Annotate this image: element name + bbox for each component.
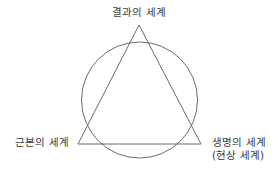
triangle-shape <box>78 25 201 144</box>
circle-shape <box>82 42 198 158</box>
diagram-figure: 결과의 세계 근본의 세계 생명의 세계 (현상 세계) <box>0 0 278 178</box>
label-bottom-right-line-2: (현상 세계) <box>212 149 278 162</box>
label-bottom-right-vertex: 생명의 세계 (현상 세계) <box>212 136 278 161</box>
label-bottom-right-line-1: 생명의 세계 <box>212 136 278 149</box>
label-bottom-left-vertex: 근본의 세계 <box>0 136 69 149</box>
label-top-vertex: 결과의 세계 <box>0 6 278 19</box>
